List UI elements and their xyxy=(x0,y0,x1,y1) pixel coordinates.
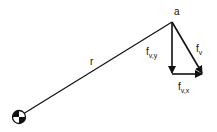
radius-line xyxy=(23,22,172,114)
label-fvy: fv,y xyxy=(146,46,158,60)
label-fvy-sub: v,y xyxy=(149,52,158,60)
point-label-a: a xyxy=(174,6,180,17)
force-diagram: a r fv,y fv fv,x xyxy=(0,0,217,132)
center-of-mass-icon xyxy=(13,111,26,124)
label-fv-sub: v xyxy=(199,49,203,56)
label-fvx: fv,x xyxy=(178,81,190,94)
label-fv: fv xyxy=(196,43,203,56)
radius-label: r xyxy=(90,56,94,67)
label-fvx-sub: v,x xyxy=(181,87,190,94)
